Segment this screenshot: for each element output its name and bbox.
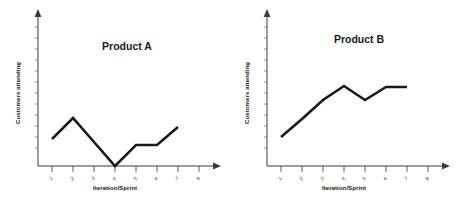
- x-tick-label: 5: [132, 175, 137, 182]
- x-axis-title: Iteration/Sprint: [322, 184, 366, 191]
- x-tick-label: 1: [277, 175, 282, 182]
- data-line-product-a: [52, 118, 178, 166]
- x-axis-ticks: [281, 166, 428, 172]
- y-axis-title: Customers attending: [243, 62, 250, 124]
- data-line-product-b: [281, 86, 407, 137]
- x-tick-label: 6: [382, 175, 387, 182]
- chart-panel-product-a: 1 2 3 4 5 6 7 8 Product A Iteration/Spri…: [0, 0, 231, 198]
- x-tick-label: 4: [340, 175, 345, 182]
- x-tick-label: 8: [195, 175, 200, 182]
- y-axis-title: Customers attending: [14, 62, 21, 124]
- chart-title-product-a: Product A: [102, 40, 152, 52]
- chart-svg-product-b: 1 2 3 4 5 6 7 8 Product B Iteration/Spri…: [231, 0, 462, 198]
- chart-panel-product-b: 1 2 3 4 5 6 7 8 Product B Iteration/Spri…: [231, 0, 462, 198]
- x-tick-label: 2: [69, 175, 74, 182]
- x-axis-arrow-icon: [213, 163, 221, 170]
- x-tick-label: 3: [319, 175, 324, 182]
- x-tick-label: 1: [48, 175, 53, 182]
- figure-root: 1 2 3 4 5 6 7 8 Product A Iteration/Spri…: [0, 0, 462, 198]
- x-tick-label: 7: [403, 175, 408, 182]
- y-axis-arrow-icon: [264, 9, 271, 17]
- x-tick-label: 5: [361, 175, 366, 182]
- x-tick-label: 7: [174, 175, 179, 182]
- x-tick-label: 8: [424, 175, 429, 182]
- x-tick-label: 4: [111, 175, 116, 182]
- x-tick-label: 6: [153, 175, 158, 182]
- x-tick-label: 2: [298, 175, 303, 182]
- y-axis-arrow-icon: [35, 9, 42, 17]
- x-axis-arrow-icon: [442, 163, 450, 170]
- x-tick-label: 3: [90, 175, 95, 182]
- x-axis-title: Iteration/Sprint: [93, 184, 137, 191]
- chart-title-product-b: Product B: [334, 33, 385, 45]
- x-axis-ticks: [52, 166, 199, 172]
- chart-svg-product-a: 1 2 3 4 5 6 7 8 Product A Iteration/Spri…: [0, 0, 231, 198]
